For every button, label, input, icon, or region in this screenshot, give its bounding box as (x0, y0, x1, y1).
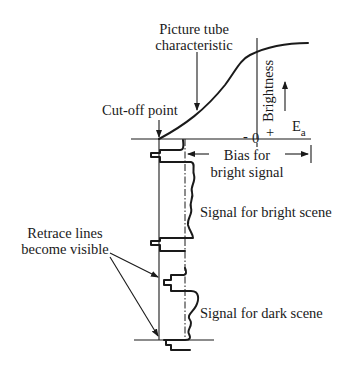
bright-scene-label: Signal for bright scene (200, 204, 332, 220)
minus-sign: - (243, 128, 248, 144)
curve-label-line1: Picture tube (159, 21, 229, 37)
cutoff-label: Cut-off point (102, 102, 178, 118)
dark-scene-signal (164, 268, 198, 340)
ea-label: Ea (292, 118, 306, 138)
retrace-label-line2: become visible (21, 241, 108, 257)
ea-main: E (292, 118, 301, 134)
dark-scene-label: Signal for dark scene (200, 305, 323, 321)
dark-scene-signal-tail (166, 341, 190, 350)
bright-scene-signal (151, 140, 194, 251)
brightness-label: Brightness (260, 60, 276, 122)
curve-label-line2: characteristic (155, 37, 232, 53)
bias-label-line2: bright signal (211, 164, 284, 180)
zero-label: 0 (252, 130, 259, 146)
picture-tube-diagram: Picture tube characteristic Cut-off poin… (0, 0, 351, 381)
picture-tube-characteristic-curve (159, 43, 308, 139)
retrace-arrow-lower (110, 257, 158, 336)
plus-sign: + (266, 124, 274, 140)
bias-label-line1: Bias for (224, 147, 270, 163)
ea-subscript: a (301, 126, 306, 138)
retrace-arrow-upper (110, 253, 158, 277)
retrace-label-line1: Retrace lines (27, 225, 103, 241)
